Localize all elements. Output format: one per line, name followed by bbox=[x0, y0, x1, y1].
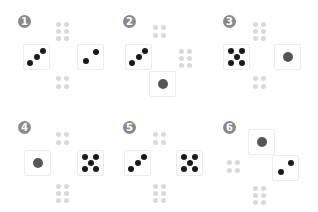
gray-pip-dot bbox=[153, 184, 158, 189]
gray-pip-dot bbox=[253, 76, 258, 81]
gray-pip-dot bbox=[153, 140, 158, 145]
pip-dot bbox=[88, 160, 94, 166]
die-face-3 bbox=[125, 44, 152, 70]
pip-dot bbox=[239, 60, 245, 66]
gray-pip-dot bbox=[227, 168, 232, 173]
gray-pip-dot bbox=[261, 29, 266, 34]
pip-dot bbox=[239, 48, 245, 54]
gray-pip-dot bbox=[253, 22, 258, 27]
die-face-1 bbox=[274, 44, 301, 70]
pip-dot bbox=[192, 166, 198, 172]
die-face-3 bbox=[124, 150, 151, 176]
gray-pip-dot bbox=[261, 200, 266, 205]
gray-pip-dot bbox=[179, 56, 184, 61]
gray-pip-dot bbox=[64, 184, 69, 189]
pip-dot bbox=[257, 137, 267, 147]
gray-pip-dot bbox=[261, 193, 266, 198]
gray-pip-dot bbox=[235, 168, 240, 173]
gray-pip-dot bbox=[187, 56, 192, 61]
panel-number-badge: 3 bbox=[223, 15, 236, 28]
gray-pip-dot bbox=[64, 191, 69, 196]
die-face-2 bbox=[272, 155, 299, 181]
pip-dot bbox=[142, 48, 148, 54]
gray-pip-dot bbox=[253, 36, 258, 41]
pip-dot bbox=[82, 154, 88, 160]
gray-pip-dot bbox=[56, 198, 61, 203]
pip-dot bbox=[228, 60, 234, 66]
panel-number-badge: 6 bbox=[223, 121, 236, 134]
die-face-5 bbox=[77, 150, 104, 176]
gray-pip-dot bbox=[161, 184, 166, 189]
gray-pip-dot bbox=[261, 36, 266, 41]
gray-pip-dot bbox=[179, 49, 184, 54]
gray-pip-dot bbox=[64, 132, 69, 137]
pip-dot bbox=[93, 154, 99, 160]
gray-pip-dot bbox=[161, 191, 166, 196]
pip-dot bbox=[33, 158, 43, 168]
gray-pip-dot bbox=[64, 36, 69, 41]
gray-pip-dot bbox=[56, 36, 61, 41]
die-face-1 bbox=[149, 71, 176, 97]
panel-number-badge: 5 bbox=[123, 121, 136, 134]
pip-dot bbox=[234, 54, 240, 60]
gray-pip-dot bbox=[161, 132, 166, 137]
gray-pip-dot bbox=[153, 198, 158, 203]
gray-pip-dot bbox=[56, 84, 61, 89]
pip-dot bbox=[82, 166, 88, 172]
gray-pip-dot bbox=[253, 193, 258, 198]
pip-dot bbox=[34, 54, 40, 60]
die-face-1 bbox=[24, 150, 51, 176]
pip-dot bbox=[128, 166, 134, 172]
gray-pip-dot bbox=[161, 140, 166, 145]
gray-pip-dot bbox=[253, 84, 258, 89]
die-face-1 bbox=[248, 129, 275, 155]
gray-pip-dot bbox=[153, 25, 158, 30]
gray-pip-dot bbox=[235, 160, 240, 165]
pip-dot bbox=[136, 54, 142, 60]
gray-pip-dot bbox=[64, 22, 69, 27]
gray-pip-dot bbox=[64, 76, 69, 81]
gray-pip-dot bbox=[253, 29, 258, 34]
panel-number-badge: 2 bbox=[123, 15, 136, 28]
gray-pip-dot bbox=[261, 22, 266, 27]
gray-pip-dot bbox=[56, 22, 61, 27]
die-face-5 bbox=[223, 44, 250, 70]
gray-pip-dot bbox=[153, 33, 158, 38]
gray-pip-dot bbox=[161, 25, 166, 30]
gray-pip-dot bbox=[187, 63, 192, 68]
pip-dot bbox=[83, 58, 89, 64]
pip-dot bbox=[93, 49, 99, 55]
gray-pip-dot bbox=[64, 140, 69, 145]
pip-dot bbox=[228, 48, 234, 54]
pip-dot bbox=[141, 154, 147, 160]
gray-pip-dot bbox=[56, 140, 61, 145]
gray-pip-dot bbox=[161, 198, 166, 203]
pip-dot bbox=[283, 52, 293, 62]
pip-dot bbox=[278, 169, 284, 175]
gray-pip-dot bbox=[64, 198, 69, 203]
gray-pip-dot bbox=[261, 84, 266, 89]
panel-number-badge: 4 bbox=[18, 121, 31, 134]
gray-pip-dot bbox=[253, 200, 258, 205]
gray-pip-dot bbox=[187, 49, 192, 54]
gray-pip-dot bbox=[261, 186, 266, 191]
pip-dot bbox=[129, 60, 135, 66]
pip-dot bbox=[27, 60, 33, 66]
pip-dot bbox=[158, 79, 168, 89]
pip-dot bbox=[187, 160, 193, 166]
gray-pip-dot bbox=[64, 84, 69, 89]
gray-pip-dot bbox=[179, 63, 184, 68]
gray-pip-dot bbox=[161, 33, 166, 38]
gray-pip-dot bbox=[227, 160, 232, 165]
gray-pip-dot bbox=[64, 29, 69, 34]
gray-pip-dot bbox=[56, 184, 61, 189]
gray-pip-dot bbox=[253, 186, 258, 191]
pip-dot bbox=[135, 160, 141, 166]
pip-dot bbox=[288, 160, 294, 166]
gray-pip-dot bbox=[56, 29, 61, 34]
gray-pip-dot bbox=[153, 132, 158, 137]
gray-pip-dot bbox=[56, 132, 61, 137]
pip-dot bbox=[40, 48, 46, 54]
pip-dot bbox=[93, 166, 99, 172]
gray-pip-dot bbox=[56, 191, 61, 196]
